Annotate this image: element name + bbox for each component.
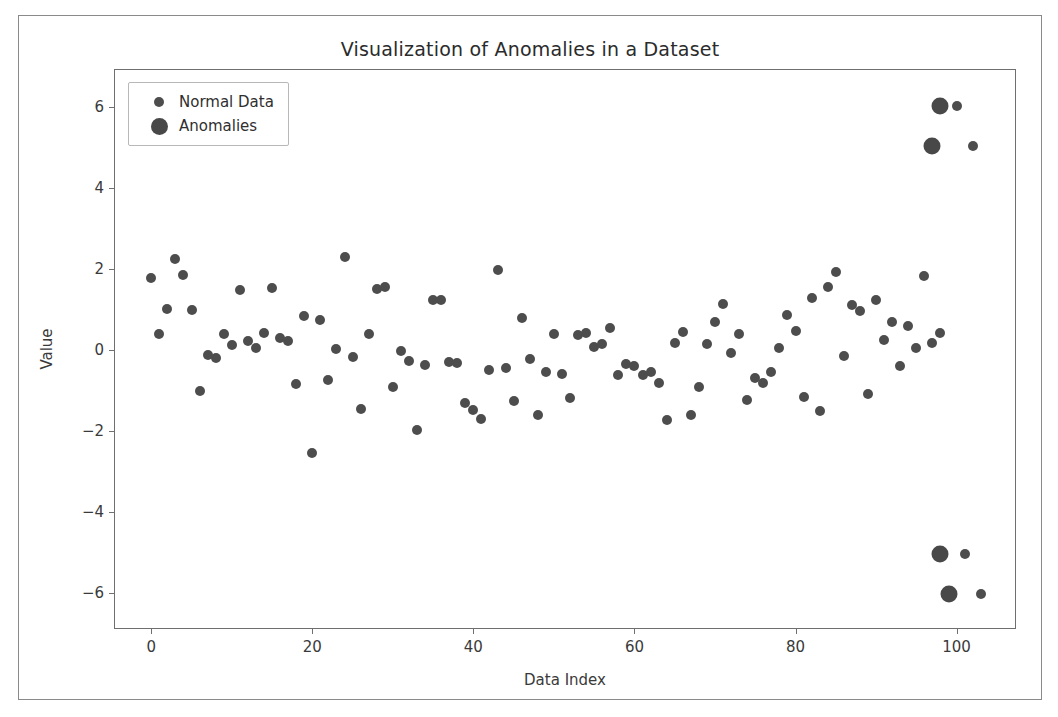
normal-data-point bbox=[493, 265, 503, 275]
normal-data-point bbox=[340, 252, 350, 262]
normal-data-point bbox=[815, 406, 825, 416]
normal-data-point bbox=[613, 370, 623, 380]
normal-data-point bbox=[509, 396, 519, 406]
normal-data-point bbox=[605, 323, 615, 333]
normal-data-point bbox=[887, 317, 897, 327]
normal-data-point bbox=[654, 378, 664, 388]
normal-data-point bbox=[976, 589, 986, 599]
normal-data-point bbox=[678, 327, 688, 337]
normal-data-point bbox=[356, 404, 366, 414]
normal-data-point bbox=[774, 343, 784, 353]
y-tick-mark bbox=[109, 107, 115, 108]
normal-data-point bbox=[259, 328, 269, 338]
normal-data-point bbox=[484, 365, 494, 375]
x-tick-mark bbox=[312, 628, 313, 634]
normal-data-point bbox=[718, 299, 728, 309]
anomaly-point bbox=[924, 138, 941, 155]
normal-data-point bbox=[307, 448, 317, 458]
normal-data-point bbox=[195, 386, 205, 396]
x-tick-label: 0 bbox=[146, 638, 156, 656]
normal-data-point bbox=[557, 369, 567, 379]
x-tick-mark bbox=[473, 628, 474, 634]
normal-data-point bbox=[597, 339, 607, 349]
normal-data-point bbox=[863, 389, 873, 399]
normal-data-point bbox=[283, 336, 293, 346]
normal-data-point bbox=[742, 395, 752, 405]
normal-data-point bbox=[452, 358, 462, 368]
normal-data-point bbox=[871, 295, 881, 305]
normal-data-point bbox=[380, 282, 390, 292]
normal-data-point bbox=[525, 354, 535, 364]
normal-data-point bbox=[541, 367, 551, 377]
normal-data-point bbox=[734, 329, 744, 339]
figure-panel: Visualization of Anomalies in a Dataset … bbox=[18, 15, 1042, 700]
normal-data-point bbox=[855, 306, 865, 316]
x-tick-mark bbox=[796, 628, 797, 634]
normal-data-point bbox=[646, 367, 656, 377]
normal-data-point bbox=[364, 329, 374, 339]
normal-data-point bbox=[227, 340, 237, 350]
normal-data-point bbox=[549, 329, 559, 339]
normal-data-point bbox=[919, 271, 929, 281]
normal-data-point bbox=[791, 326, 801, 336]
normal-data-point bbox=[251, 343, 261, 353]
normal-data-point bbox=[758, 378, 768, 388]
normal-data-point bbox=[726, 348, 736, 358]
normal-data-point bbox=[187, 305, 197, 315]
legend-box: Normal Data Anomalies bbox=[128, 82, 289, 146]
normal-data-point bbox=[807, 293, 817, 303]
normal-data-point bbox=[879, 335, 889, 345]
normal-data-point bbox=[952, 101, 962, 111]
y-tick-mark bbox=[109, 593, 115, 594]
normal-data-point bbox=[694, 382, 704, 392]
normal-data-point bbox=[935, 328, 945, 338]
normal-data-point bbox=[219, 329, 229, 339]
normal-data-point bbox=[702, 339, 712, 349]
normal-data-point bbox=[823, 282, 833, 292]
normal-data-point bbox=[299, 311, 309, 321]
legend-label-normal-data: Normal Data bbox=[179, 93, 274, 111]
normal-data-point bbox=[903, 321, 913, 331]
normal-data-point bbox=[501, 363, 511, 373]
normal-data-point bbox=[154, 329, 164, 339]
normal-data-point bbox=[799, 392, 809, 402]
normal-data-point bbox=[404, 356, 414, 366]
anomaly-point bbox=[932, 97, 949, 114]
anomaly-point bbox=[932, 545, 949, 562]
normal-data-point bbox=[911, 343, 921, 353]
y-tick-label: −4 bbox=[82, 503, 104, 521]
normal-data-point bbox=[162, 304, 172, 314]
normal-data-point bbox=[533, 410, 543, 420]
plot-area: 6420−2−4−6 020406080100 Normal Data Anom… bbox=[114, 69, 1016, 629]
chart-title: Visualization of Anomalies in a Dataset bbox=[19, 38, 1041, 60]
y-tick-mark bbox=[109, 431, 115, 432]
normal-data-point bbox=[968, 141, 978, 151]
normal-data-point bbox=[170, 254, 180, 264]
y-tick-label: 6 bbox=[94, 98, 104, 116]
normal-data-point bbox=[670, 338, 680, 348]
x-tick-label: 60 bbox=[625, 638, 644, 656]
normal-data-point bbox=[412, 425, 422, 435]
normal-data-point bbox=[420, 360, 430, 370]
x-tick-label: 80 bbox=[786, 638, 805, 656]
x-tick-label: 40 bbox=[464, 638, 483, 656]
normal-data-point bbox=[267, 283, 277, 293]
normal-data-point bbox=[468, 405, 478, 415]
normal-data-point bbox=[895, 361, 905, 371]
normal-data-point bbox=[766, 367, 776, 377]
normal-data-point bbox=[178, 270, 188, 280]
normal-data-point bbox=[839, 351, 849, 361]
normal-data-point bbox=[323, 375, 333, 385]
y-tick-label: 4 bbox=[94, 179, 104, 197]
normal-data-point bbox=[565, 393, 575, 403]
legend-anomaly-marker-icon bbox=[139, 118, 179, 135]
y-axis-title: Value bbox=[38, 328, 56, 369]
x-tick-mark bbox=[151, 628, 152, 634]
x-tick-label: 100 bbox=[942, 638, 971, 656]
y-tick-mark bbox=[109, 188, 115, 189]
normal-data-point bbox=[476, 414, 486, 424]
normal-data-point bbox=[686, 410, 696, 420]
x-axis-title: Data Index bbox=[524, 671, 606, 689]
normal-data-point bbox=[315, 315, 325, 325]
normal-data-point bbox=[662, 415, 672, 425]
